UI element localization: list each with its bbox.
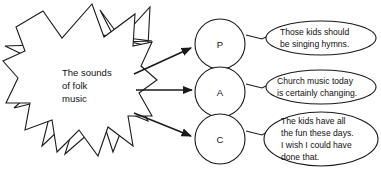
callout-p-line-2: be singing hymns. [280,39,349,49]
node-label-a: A [217,87,224,98]
burst-text-line-3: music [62,93,87,104]
callout-a-line-1: Church music today [277,76,354,86]
diagram-svg: P A C The sounds of folk music Those kid… [0,0,381,178]
node-label-p: P [217,39,223,50]
burst-text-line-1: The sounds [62,67,112,78]
callout-c-line-4: done that. [281,152,319,162]
callout-a-line-2: is certainly changing. [277,88,357,98]
callout-p-line-1: Those kids should [280,27,349,37]
connector-burst-to-c [134,113,191,136]
callout-c-line-2: the fun these days. [281,128,354,138]
diagram-canvas: P A C The sounds of folk music Those kid… [0,0,381,178]
callout-c-line-1: The kids have all [281,116,346,126]
node-label-c: C [217,134,224,145]
callout-c-line-3: I wish I could have [281,140,352,150]
burst-text-line-2: of folk [62,80,88,91]
